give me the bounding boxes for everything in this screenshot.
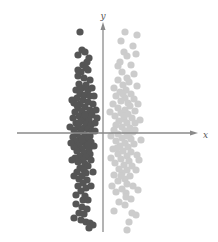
data-point xyxy=(135,156,142,163)
data-point xyxy=(110,84,117,91)
data-point xyxy=(121,28,128,35)
data-point xyxy=(68,156,75,163)
y-axis-label: y xyxy=(99,11,106,21)
data-point xyxy=(76,86,83,93)
data-point xyxy=(137,136,144,143)
data-point xyxy=(132,50,139,57)
data-point xyxy=(84,196,91,203)
data-point xyxy=(70,172,77,179)
data-point xyxy=(84,141,91,148)
data-point xyxy=(106,108,113,115)
data-point xyxy=(89,168,96,175)
data-point xyxy=(117,97,124,104)
data-point xyxy=(76,28,83,35)
data-point xyxy=(73,101,80,108)
data-point xyxy=(78,136,85,143)
data-point xyxy=(136,116,143,123)
data-point xyxy=(67,139,74,146)
scatter-plot: x y xyxy=(0,0,218,242)
data-point xyxy=(133,31,140,38)
data-point xyxy=(123,226,130,233)
data-point xyxy=(107,154,114,161)
data-point xyxy=(74,51,81,58)
data-point xyxy=(70,214,77,221)
data-point xyxy=(74,66,81,73)
data-point xyxy=(110,207,117,214)
data-point xyxy=(81,111,88,118)
data-point xyxy=(118,68,125,75)
data-point xyxy=(131,107,138,114)
axes: x y xyxy=(17,11,208,233)
data-point xyxy=(84,66,91,73)
data-point xyxy=(121,201,128,208)
data-point xyxy=(130,70,137,77)
data-point xyxy=(120,112,127,119)
data-point xyxy=(87,182,94,189)
data-point xyxy=(108,182,115,189)
y-axis-arrow-icon xyxy=(101,22,106,30)
data-points-layer xyxy=(66,28,144,233)
data-point xyxy=(81,48,88,55)
data-point xyxy=(122,193,129,200)
data-point xyxy=(123,52,130,59)
data-point xyxy=(125,130,132,137)
data-point xyxy=(83,58,90,65)
data-point xyxy=(129,42,136,49)
x-axis-arrow-icon xyxy=(190,131,198,136)
data-point xyxy=(112,188,119,195)
data-point xyxy=(125,218,132,225)
data-point xyxy=(127,61,134,68)
data-point xyxy=(110,171,117,178)
data-point xyxy=(132,166,139,173)
data-point xyxy=(93,114,100,121)
series-light xyxy=(106,28,144,233)
data-point xyxy=(132,211,139,218)
data-point xyxy=(85,224,92,231)
data-point xyxy=(119,90,126,97)
data-point xyxy=(117,172,124,179)
data-point xyxy=(90,142,97,149)
data-point xyxy=(88,84,95,91)
data-point xyxy=(75,119,82,126)
series-dark xyxy=(66,28,100,231)
data-point xyxy=(134,186,141,193)
data-point xyxy=(90,92,97,99)
data-point xyxy=(117,37,124,44)
data-point xyxy=(92,106,99,113)
data-point xyxy=(116,58,123,65)
data-point xyxy=(72,191,79,198)
x-axis-label: x xyxy=(203,130,208,140)
data-point xyxy=(134,100,141,107)
data-point xyxy=(66,123,73,130)
data-point xyxy=(133,82,140,89)
data-point xyxy=(113,144,120,151)
